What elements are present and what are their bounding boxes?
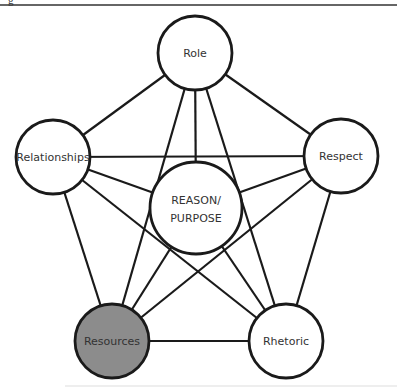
diagram-figure: g RoleRelationshipsRespectResourcesRheto… <box>0 0 397 388</box>
node-relationships: Relationships <box>16 120 90 194</box>
network-diagram: RoleRelationshipsRespectResourcesRhetori… <box>0 0 397 388</box>
node-label: Respect <box>319 150 363 163</box>
edge-relationships-respect <box>53 156 341 157</box>
node-label: Role <box>183 47 207 60</box>
node-label: REASON/ <box>171 194 221 207</box>
node-label: Resources <box>84 335 140 348</box>
node-rhetoric: Rhetoric <box>249 304 323 378</box>
node-center: REASON/PURPOSE <box>150 162 242 254</box>
caption-fragment: g <box>8 0 14 6</box>
node-role: Role <box>158 16 232 90</box>
node-label: PURPOSE <box>170 212 222 225</box>
node-circle <box>150 162 242 254</box>
node-resources: Resources <box>75 304 149 378</box>
node-group: RoleRelationshipsRespectResourcesRhetori… <box>16 16 378 378</box>
node-label: Rhetoric <box>263 335 309 348</box>
node-label: Relationships <box>16 151 90 164</box>
node-respect: Respect <box>304 119 378 193</box>
